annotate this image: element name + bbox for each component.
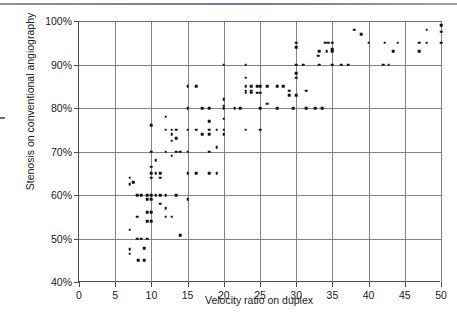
gridline-horizontal-100 xyxy=(79,21,441,22)
x-tick-30 xyxy=(296,282,297,287)
data-point xyxy=(186,85,189,88)
data-point xyxy=(295,76,298,79)
data-point xyxy=(137,259,140,262)
data-point xyxy=(146,211,149,214)
data-point xyxy=(195,172,198,175)
x-tick-10 xyxy=(151,282,152,287)
data-point xyxy=(282,85,285,88)
data-point xyxy=(266,85,269,88)
y-tick-label-40%: 40% xyxy=(51,276,72,288)
gridline-horizontal-70 xyxy=(79,152,441,153)
data-point xyxy=(175,194,178,197)
data-point xyxy=(295,72,298,75)
y-tick-40 xyxy=(74,282,79,283)
data-point xyxy=(150,220,153,223)
data-point xyxy=(195,128,198,131)
gridline-horizontal-60 xyxy=(79,195,441,196)
data-point xyxy=(159,202,162,205)
data-point xyxy=(367,41,370,44)
data-point xyxy=(321,107,324,110)
data-point xyxy=(208,133,211,136)
y-tick-80 xyxy=(74,108,79,109)
data-point xyxy=(244,128,247,131)
data-point xyxy=(159,194,162,197)
x-tick-25 xyxy=(260,282,261,287)
data-point xyxy=(146,237,149,240)
data-point xyxy=(418,41,421,44)
x-tick-40 xyxy=(369,282,370,287)
data-point xyxy=(159,172,162,175)
data-point xyxy=(223,133,226,136)
data-point xyxy=(179,234,182,237)
data-point xyxy=(140,194,143,197)
data-point xyxy=(128,252,131,255)
data-point xyxy=(353,28,356,31)
data-point xyxy=(150,172,153,175)
data-point xyxy=(143,247,146,250)
data-point xyxy=(143,259,146,262)
x-tick-0 xyxy=(79,282,80,287)
data-point xyxy=(186,107,189,110)
data-point xyxy=(382,63,385,66)
data-point xyxy=(425,28,428,31)
data-point xyxy=(140,237,143,240)
plot-area: 05101520253035404550 40%50%60%70%80%90%1… xyxy=(78,21,440,282)
x-tick-15 xyxy=(188,282,189,287)
data-point xyxy=(128,176,131,179)
data-point xyxy=(165,115,168,118)
y-tick-label-80%: 80% xyxy=(51,102,72,114)
data-point xyxy=(175,128,178,131)
data-point xyxy=(244,91,247,94)
data-point xyxy=(175,137,178,140)
x-tick-35 xyxy=(332,282,333,287)
data-point xyxy=(440,24,443,27)
y-tick-label-70%: 70% xyxy=(51,146,72,158)
data-point xyxy=(305,107,308,110)
data-point xyxy=(259,85,262,88)
data-point xyxy=(170,139,173,142)
data-point xyxy=(259,128,262,131)
data-point xyxy=(295,41,298,44)
data-point xyxy=(239,107,242,110)
data-point xyxy=(132,181,135,184)
data-point xyxy=(159,176,162,179)
data-point xyxy=(170,133,173,136)
data-point xyxy=(179,150,182,153)
data-point xyxy=(165,207,168,210)
data-point xyxy=(146,194,149,197)
y-tick-100 xyxy=(74,21,79,22)
data-point xyxy=(170,155,173,158)
data-point xyxy=(175,150,178,153)
x-tick-50 xyxy=(441,282,442,287)
y-axis-title: Stenosis on conventional angiography xyxy=(24,12,37,192)
y-tick-90 xyxy=(74,65,79,66)
data-point xyxy=(150,165,153,168)
data-point xyxy=(305,89,308,92)
data-point xyxy=(215,146,218,149)
data-point xyxy=(186,198,189,201)
data-point xyxy=(208,150,211,153)
data-point xyxy=(302,63,305,66)
data-point xyxy=(244,76,247,79)
data-point xyxy=(425,41,428,44)
data-point xyxy=(295,63,298,66)
data-point xyxy=(223,98,226,101)
data-point xyxy=(327,41,330,44)
data-point xyxy=(233,107,236,110)
data-point xyxy=(396,41,399,44)
data-point xyxy=(266,102,269,105)
x-tick-5 xyxy=(115,282,116,287)
gridline-horizontal-50 xyxy=(79,239,441,240)
data-point xyxy=(318,63,321,66)
data-point xyxy=(215,172,218,175)
data-point xyxy=(331,63,334,66)
data-point xyxy=(295,46,298,49)
data-point xyxy=(259,91,262,94)
data-point xyxy=(223,118,226,121)
data-point xyxy=(150,194,153,197)
data-point xyxy=(195,85,198,88)
x-tick-20 xyxy=(224,282,225,287)
y-tick-50 xyxy=(74,239,79,240)
data-point xyxy=(136,237,139,240)
data-point xyxy=(292,107,295,110)
